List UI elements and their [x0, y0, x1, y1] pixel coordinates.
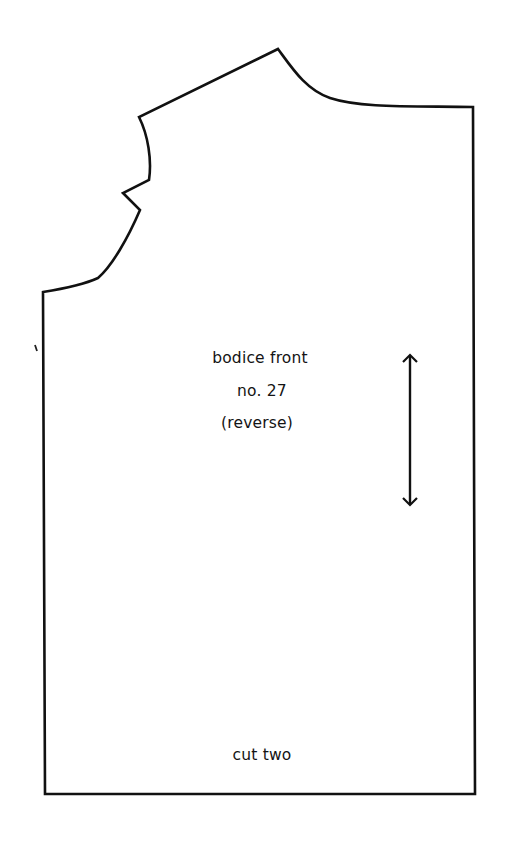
grainline-double-arrow-icon	[403, 355, 417, 505]
reverse-note-label: (reverse)	[221, 414, 293, 432]
cut-instruction-label: cut two	[233, 746, 292, 764]
piece-name-label: bodice front	[212, 349, 308, 367]
pattern-number-label: no. 27	[237, 382, 287, 400]
stray-mark	[35, 345, 37, 351]
